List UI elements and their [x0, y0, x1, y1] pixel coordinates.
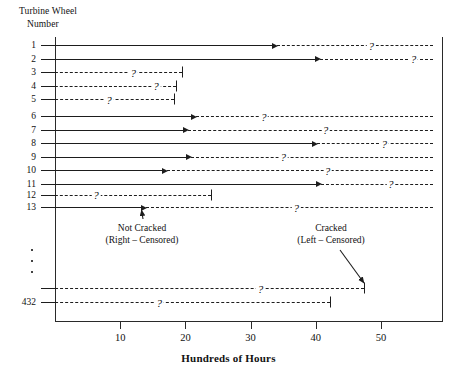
interval-end-tick — [182, 67, 183, 78]
unknown-marker: ? — [152, 81, 161, 92]
row-dashed-segment — [45, 288, 364, 289]
row-dashed-segment — [321, 184, 433, 185]
x-tick-30 — [251, 322, 252, 329]
unknown-marker: ? — [380, 138, 389, 149]
row-label-5: 5 — [10, 94, 36, 104]
annotation-cracked: Cracked(Left – Censored) — [297, 222, 365, 246]
row-label-2: 2 — [10, 54, 36, 64]
y-axis-title-line2: Number — [27, 18, 59, 30]
row-solid-segment — [45, 59, 316, 60]
row-dashed-segment — [191, 157, 433, 158]
unknown-marker: ? — [92, 190, 101, 201]
x-axis-label: Hundreds of Hours — [0, 352, 457, 364]
row-dashed-segment — [167, 170, 434, 171]
row-dashed-segment — [45, 302, 330, 303]
x-tick-label-50: 50 — [376, 332, 387, 343]
unknown-marker: ? — [279, 152, 288, 163]
row-dashed-segment — [317, 143, 434, 144]
row-label-10: 10 — [10, 165, 36, 175]
unknown-marker: ? — [409, 54, 418, 65]
row-solid-segment — [45, 184, 317, 185]
interval-end-tick — [176, 80, 177, 91]
row-label-4: 4 — [10, 81, 36, 91]
row-solid-segment — [45, 143, 313, 144]
unknown-marker: ? — [105, 94, 114, 105]
row-dashed-segment — [196, 116, 433, 117]
row-label-13: 13 — [10, 202, 36, 212]
x-tick-label-20: 20 — [180, 332, 191, 343]
annotation-title: Not Cracked — [106, 222, 179, 234]
row-label-3: 3 — [10, 67, 36, 77]
unknown-marker: ? — [259, 111, 268, 122]
unknown-marker: ? — [256, 283, 265, 294]
annotation-not-cracked: Not Cracked(Right – Censored) — [106, 222, 179, 246]
unknown-marker: ? — [387, 179, 396, 190]
row-label-12: 12 — [10, 190, 36, 200]
x-tick-20 — [185, 322, 186, 329]
row-label-7: 7 — [10, 125, 36, 135]
annotation-subtitle: (Left – Censored) — [297, 234, 365, 246]
annotation-title: Cracked — [297, 222, 365, 234]
unknown-marker: ? — [155, 297, 164, 308]
row-dashed-segment — [45, 72, 182, 73]
x-tick-10 — [120, 322, 121, 329]
row-solid-segment — [45, 207, 142, 208]
x-tick-50 — [381, 322, 382, 329]
plot-frame — [55, 37, 443, 322]
y-axis-title-line1: Turbine Wheel — [19, 5, 77, 17]
row-dashed-segment — [188, 130, 433, 131]
unknown-marker: ? — [129, 67, 138, 78]
row-label-8: 8 — [10, 138, 36, 148]
row-solid-segment — [45, 157, 187, 158]
interval-end-tick — [330, 297, 331, 308]
x-tick-label-10: 10 — [115, 332, 126, 343]
vertical-ellipsis-dot — [31, 260, 33, 262]
row-label-1: 1 — [10, 40, 36, 50]
row-dashed-segment — [277, 45, 433, 46]
vertical-ellipsis-dot — [31, 271, 33, 273]
row-solid-segment — [45, 116, 192, 117]
row-solid-segment — [45, 45, 273, 46]
unknown-marker: ? — [292, 202, 301, 213]
annotation-subtitle: (Right – Censored) — [106, 234, 179, 246]
row-solid-segment — [45, 170, 163, 171]
row-label-432: 432 — [10, 297, 36, 307]
row-label-9: 9 — [10, 152, 36, 162]
x-tick-label-40: 40 — [311, 332, 322, 343]
row-solid-segment — [45, 130, 184, 131]
row-dashed-segment — [45, 195, 211, 196]
x-tick-40 — [316, 322, 317, 329]
unknown-marker: ? — [323, 165, 332, 176]
row-label-6: 6 — [10, 111, 36, 121]
unknown-marker: ? — [321, 125, 330, 136]
interval-end-tick — [211, 189, 212, 200]
interval-end-tick — [174, 94, 175, 105]
x-tick-label-30: 30 — [245, 332, 256, 343]
interval-end-tick — [364, 283, 365, 294]
unknown-marker: ? — [367, 40, 376, 51]
row-dashed-segment — [146, 207, 433, 208]
row-label-11: 11 — [10, 179, 36, 189]
vertical-ellipsis-dot — [31, 249, 33, 251]
